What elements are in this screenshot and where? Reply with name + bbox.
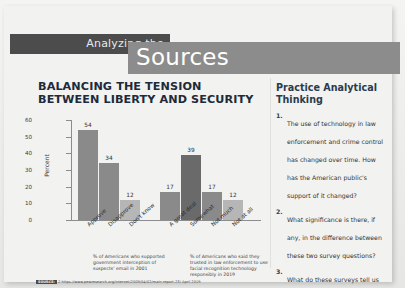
column-divider	[270, 78, 271, 268]
bar-value-label: 34	[105, 155, 112, 161]
sidebar-panel: Practice Analytical Thinking 1.The use o…	[276, 82, 388, 288]
bar-chart: Percent 0102030405060 54341217391712 App…	[38, 114, 264, 244]
bar-value-label: 12	[126, 192, 133, 198]
question-list: 1.The use of technology in law enforceme…	[276, 112, 388, 288]
bar-value-label: 54	[84, 122, 91, 128]
source-label: SOURCE:	[36, 280, 57, 284]
y-tick	[66, 170, 71, 171]
chart-source: SOURCE: 2 https://www.pewresearch.org/in…	[36, 280, 286, 285]
y-tick	[66, 187, 71, 188]
question-number: 2.	[276, 208, 283, 215]
y-axis-label: Percent	[43, 140, 50, 192]
bar-value-label: 39	[187, 147, 194, 153]
y-tick	[66, 120, 71, 121]
question-text: The use of technology in law enforcement…	[287, 120, 383, 199]
sidebar-title: Practice Analytical Thinking	[276, 82, 388, 105]
chart-title: BALANCING THE TENSION BETWEEN LIBERTY AN…	[38, 80, 266, 106]
y-tick	[66, 137, 71, 138]
question-item: 2.What significance is there, if any, in…	[276, 208, 388, 262]
y-tick	[66, 220, 71, 221]
banner-title-band: Sources	[128, 42, 400, 74]
y-tick-label: 0	[2, 217, 32, 223]
y-tick-label: 50	[2, 134, 32, 140]
bar-value-label: 17	[166, 184, 173, 190]
chart-caption-left: % of Americans who supported government …	[93, 254, 167, 272]
chart-panel: BALANCING THE TENSION BETWEEN LIBERTY AN…	[38, 80, 266, 244]
source-text: 2 https://www.pewresearch.org/internet/2…	[58, 280, 201, 284]
y-axis-line	[71, 120, 72, 220]
y-axis-label-wrap: Percent	[38, 120, 50, 220]
y-tick-label: 40	[2, 150, 32, 156]
question-number: 1.	[276, 112, 283, 119]
y-tick-label: 60	[2, 117, 32, 123]
bar: 54	[78, 130, 98, 220]
y-tick	[66, 153, 71, 154]
y-tick-label: 30	[2, 167, 32, 173]
banner-title-text: Sources	[136, 44, 229, 70]
chart-caption-right: % of Americans who said they trusted in …	[190, 254, 270, 278]
question-text: What significance is there, if any, in t…	[287, 216, 382, 259]
page-banner: Analyzing the Sources	[4, 30, 392, 74]
document-sheet: Analyzing the Sources BALANCING THE TENS…	[4, 6, 392, 282]
y-tick	[66, 203, 71, 204]
question-item: 3.What do these surveys tell us about th…	[276, 268, 388, 288]
question-text: What do these surveys tell us about the …	[287, 276, 379, 288]
question-item: 1.The use of technology in law enforceme…	[276, 112, 388, 202]
bar-value-label: 12	[229, 192, 236, 198]
bar-value-label: 17	[208, 184, 215, 190]
page-background: Analyzing the Sources BALANCING THE TENS…	[0, 0, 405, 288]
y-tick-label: 20	[2, 184, 32, 190]
y-tick-label: 10	[2, 200, 32, 206]
question-number: 3.	[276, 268, 283, 275]
